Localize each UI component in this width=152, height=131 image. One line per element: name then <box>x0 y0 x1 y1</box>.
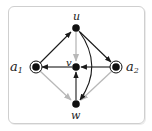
edge-a1-w <box>40 71 71 100</box>
label-w: w <box>71 109 81 122</box>
label-a1: a1 <box>10 59 23 75</box>
node-a2 <box>110 61 122 73</box>
label-a2: a2 <box>126 59 139 75</box>
node-w <box>72 100 80 108</box>
node-a1 <box>30 61 42 73</box>
graph-diagram: u v w a1 a2 <box>0 0 152 131</box>
label-u: u <box>73 10 80 23</box>
node-u <box>72 24 80 32</box>
edge-a2-w <box>81 71 112 100</box>
label-v: v <box>66 57 72 68</box>
node-v <box>72 63 80 71</box>
edge-u-a2 <box>80 32 111 62</box>
